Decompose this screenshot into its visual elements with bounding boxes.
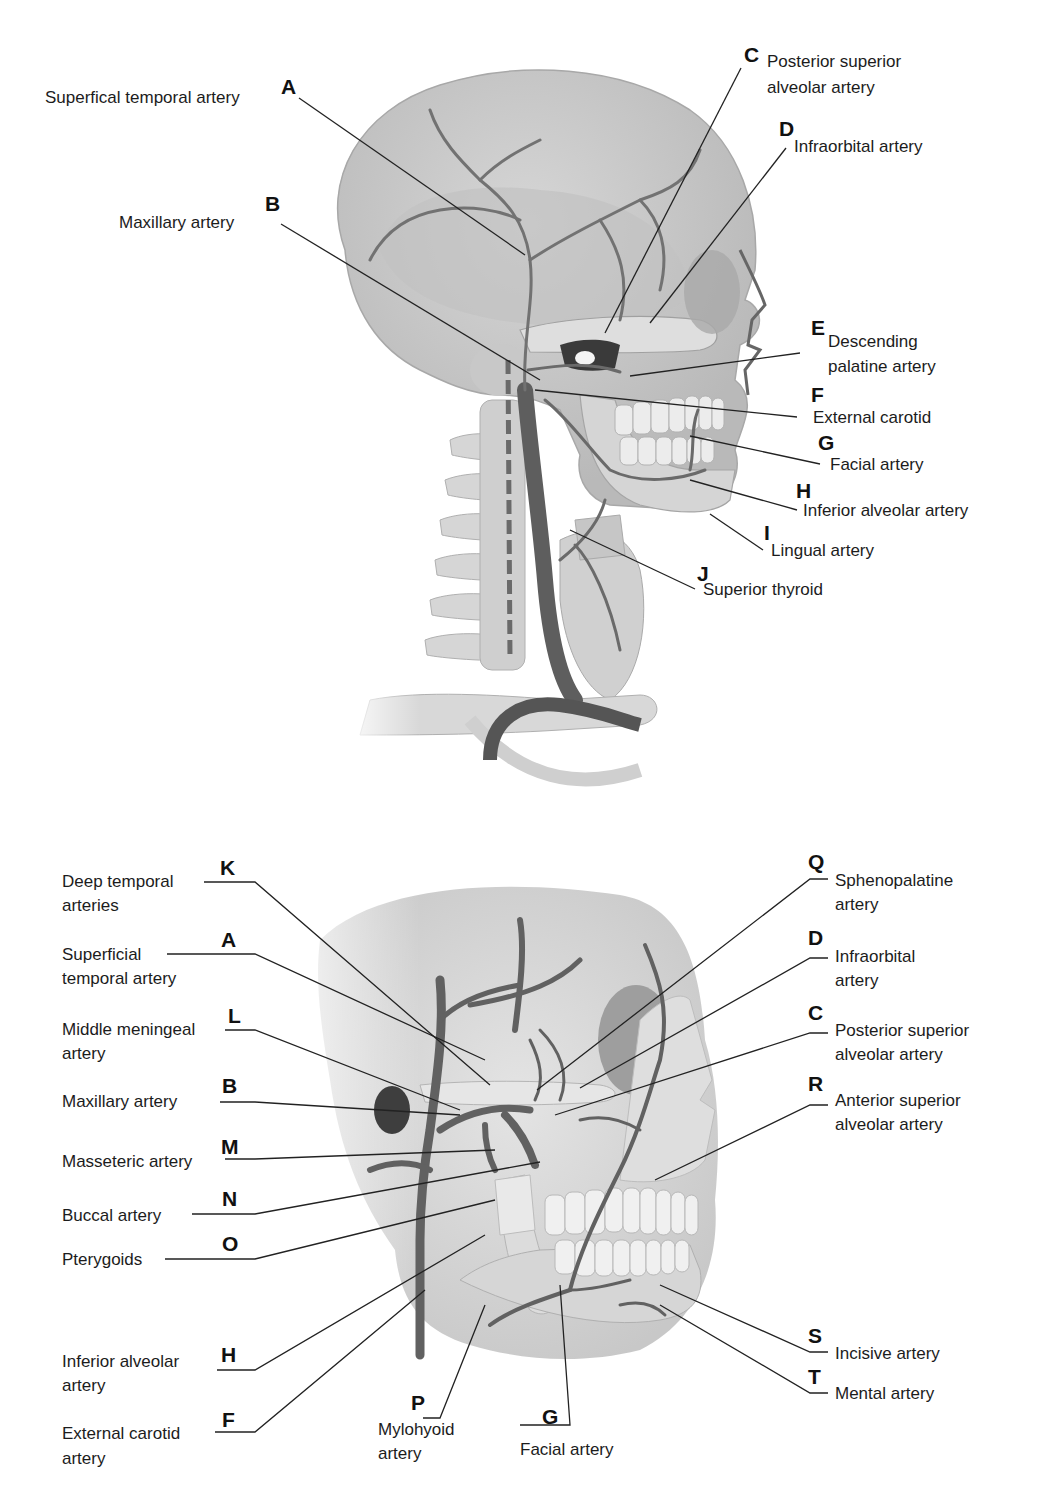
label-text-line2: artery [378, 1442, 421, 1465]
label-text-line1: Posterior superior [767, 50, 901, 73]
label-letter: S [808, 1325, 822, 1347]
label-text: Facial artery [520, 1438, 614, 1461]
label-letter: C [808, 1002, 823, 1024]
label-text-line1: Inferior alveolar [62, 1350, 179, 1373]
label-text: Inferior alveolar artery [803, 499, 968, 522]
label-text-line2: alveolar artery [835, 1043, 943, 1066]
label-text-line1: Descending [828, 330, 918, 353]
label-text: Pterygoids [62, 1248, 142, 1271]
label-letter: A [281, 76, 296, 98]
label-text-line1: Deep temporal [62, 870, 174, 893]
label-letter: N [222, 1188, 237, 1210]
label-letter: C [744, 44, 759, 66]
label-letter: K [220, 857, 235, 879]
label-letter: M [221, 1136, 239, 1158]
label-text: Incisive artery [835, 1342, 940, 1365]
label-letter: T [808, 1366, 821, 1388]
label-text: Maxillary artery [119, 211, 234, 234]
label-letter: D [779, 118, 794, 140]
label-text-line1: Mylohyoid [378, 1418, 455, 1441]
label-letter: D [808, 927, 823, 949]
label-letter: B [222, 1075, 237, 1097]
label-text: Superior thyroid [703, 578, 823, 601]
label-text-line1: Sphenopalatine [835, 869, 953, 892]
label-text-line2: artery [835, 893, 878, 916]
label-text-line1: Middle meningeal [62, 1018, 195, 1041]
label-text-line1: Posterior superior [835, 1019, 969, 1042]
label-text-line2: alveolar artery [767, 76, 875, 99]
top-skull-illustration [338, 70, 765, 779]
label-text: Masseteric artery [62, 1150, 192, 1173]
label-text-line2: artery [835, 969, 878, 992]
label-letter: L [228, 1005, 241, 1027]
label-text-line1: Superficial [62, 943, 141, 966]
label-letter: F [222, 1409, 235, 1431]
label-text-line2: temporal artery [62, 967, 176, 990]
label-letter: O [222, 1233, 238, 1255]
bottom-face-illustration [300, 880, 718, 1359]
label-letter: G [542, 1406, 558, 1428]
label-text: Lingual artery [771, 539, 874, 562]
label-letter: G [818, 432, 834, 454]
label-letter: P [411, 1392, 425, 1414]
label-text-line2: palatine artery [828, 355, 936, 378]
label-letter: E [811, 317, 825, 339]
label-letter: Q [808, 851, 824, 873]
label-text-line2: artery [62, 1447, 105, 1470]
label-letter: H [221, 1344, 236, 1366]
label-letter: R [808, 1073, 823, 1095]
label-text-line2: arteries [62, 894, 119, 917]
label-text-line2: artery [62, 1042, 105, 1065]
label-text-line1: Anterior superior [835, 1089, 961, 1112]
label-letter: I [764, 522, 770, 544]
label-text: Superfical temporal artery [45, 86, 240, 109]
label-text: Maxillary artery [62, 1090, 177, 1113]
label-letter: F [811, 384, 824, 406]
label-text-line2: artery [62, 1374, 105, 1397]
label-text: Infraorbital artery [794, 135, 923, 158]
label-text-line2: alveolar artery [835, 1113, 943, 1136]
label-text: External carotid [813, 406, 931, 429]
label-letter: B [265, 193, 280, 215]
label-text-line1: Infraorbital [835, 945, 915, 968]
label-text-line1: External carotid [62, 1422, 180, 1445]
label-text: Facial artery [830, 453, 924, 476]
label-letter: A [221, 929, 236, 951]
label-text: Mental artery [835, 1382, 934, 1405]
label-text: Buccal artery [62, 1204, 161, 1227]
